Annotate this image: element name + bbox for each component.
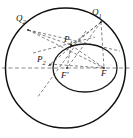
- chord-q1-f: [101, 22, 104, 68]
- chord-p1-f: [71, 45, 104, 68]
- point-q2: [27, 29, 29, 31]
- label-p2: P2: [37, 55, 46, 66]
- label-p1: P1: [64, 35, 73, 46]
- label-f-prime: F': [61, 71, 68, 80]
- label-q1: Q1: [92, 8, 102, 19]
- geometry-figure: Q2 Q1 P1 P2 F' F: [0, 0, 133, 138]
- point-f-prime: [66, 67, 68, 69]
- chord-q2-extended-right: [28, 30, 120, 51]
- label-f: F: [101, 69, 107, 78]
- chord-p2-f: [49, 64, 104, 68]
- point-q1: [100, 21, 102, 23]
- point-p2: [49, 64, 51, 66]
- label-q2: Q2: [16, 14, 26, 25]
